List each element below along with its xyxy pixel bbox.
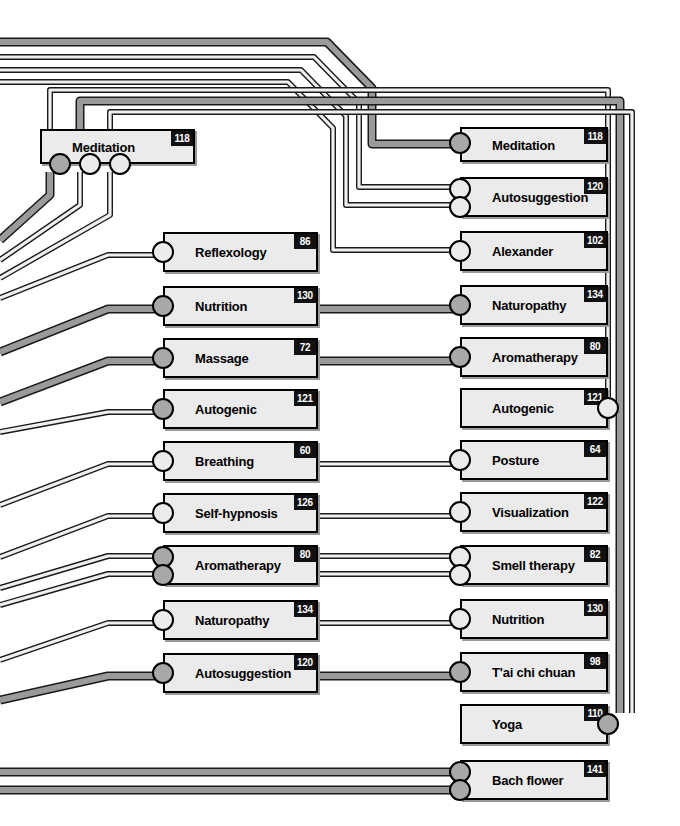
port-left-alexander-0[interactable] [449,240,471,262]
node-badge: 118 [171,131,193,146]
node-left-autogenic[interactable]: 121Autogenic [163,389,318,429]
node-badge: 64 [584,442,606,457]
node-badge: 130 [294,288,316,303]
node-right-smell-therapy[interactable]: 82Smell therapy [460,545,608,585]
node-label: T'ai chi chuan [492,665,575,680]
node-label: Massage [195,351,249,366]
node-label: Autosuggestion [492,190,588,205]
node-badge: 80 [294,547,316,562]
node-right-autogenic[interactable]: 121Autogenic [460,388,608,428]
node-label: Posture [492,453,539,468]
node-label: Nutrition [492,612,544,627]
port-right-yoga-0[interactable] [597,713,619,735]
node-label: Autosuggestion [195,666,291,681]
node-badge: 141 [584,762,606,777]
port-left-self-hypnosis-0[interactable] [152,502,174,524]
node-badge: 126 [294,495,316,510]
node-left-massage[interactable]: 72Massage [163,338,318,378]
node-label: Visualization [492,505,569,520]
node-left-naturopathy[interactable]: 134Naturopathy [163,600,318,640]
port-left-aromatherapy-1[interactable] [152,564,174,586]
node-right-yoga[interactable]: 110Yoga [460,704,608,744]
node-badge: 120 [294,655,316,670]
node-label: Meditation [72,139,135,154]
node-badge: 98 [584,654,606,669]
node-right-alexander[interactable]: 102Alexander [460,231,608,271]
port-left-autosuggestion-1[interactable] [449,196,471,218]
node-right-aromatherapy[interactable]: 80Aromatherapy [460,337,608,377]
port-left-bach-flower-1[interactable] [449,779,471,801]
node-label: Nutrition [195,299,247,314]
node-badge: 121 [294,391,316,406]
node-label: Autogenic [195,402,257,417]
port-left-meditation-0[interactable] [449,132,471,154]
port-left-breathing-0[interactable] [152,450,174,472]
node-label: Meditation [492,137,555,152]
node-left-reflexology[interactable]: 86Reflexology [163,232,318,272]
node-right-nutrition[interactable]: 130Nutrition [460,599,608,639]
diagram-canvas: 118Meditation86Reflexology130Nutrition72… [0,0,680,826]
port-left-smell-therapy-1[interactable] [449,564,471,586]
port-left-nutrition-0[interactable] [152,295,174,317]
node-label: Alexander [492,244,553,259]
node-label: Aromatherapy [492,350,578,365]
node-badge: 134 [584,287,606,302]
node-left-aromatherapy[interactable]: 80Aromatherapy [163,545,318,585]
port-left-naturopathy-0[interactable] [152,609,174,631]
node-badge: 102 [584,233,606,248]
node-badge: 60 [294,443,316,458]
port-left-t-ai-chi-chuan-0[interactable] [449,661,471,683]
node-label: Bach flower [492,773,563,788]
node-badge: 82 [584,547,606,562]
port-left-visualization-0[interactable] [449,501,471,523]
node-left-breathing[interactable]: 60Breathing [163,441,318,481]
port-bottom-meditation-1[interactable] [79,153,101,175]
port-bottom-meditation-2[interactable] [109,153,131,175]
port-left-autosuggestion-0[interactable] [152,662,174,684]
node-label: Yoga [492,717,522,732]
node-badge: 130 [584,601,606,616]
node-left-autosuggestion[interactable]: 120Autosuggestion [163,653,318,693]
node-label: Naturopathy [492,298,566,313]
node-label: Naturopathy [195,613,269,628]
node-badge: 80 [584,339,606,354]
node-left-nutrition[interactable]: 130Nutrition [163,286,318,326]
node-badge: 72 [294,340,316,355]
port-left-nutrition-0[interactable] [449,608,471,630]
node-right-posture[interactable]: 64Posture [460,440,608,480]
port-left-naturopathy-0[interactable] [449,294,471,316]
node-badge: 134 [294,602,316,617]
node-label: Autogenic [492,401,554,416]
port-bottom-meditation-0[interactable] [49,153,71,175]
node-badge: 86 [294,234,316,249]
node-right-autosuggestion[interactable]: 120Autosuggestion [460,177,608,217]
node-label: Self-hypnosis [195,506,278,521]
node-left-self-hypnosis[interactable]: 126Self-hypnosis [163,493,318,533]
node-badge: 122 [584,494,606,509]
node-right-naturopathy[interactable]: 134Naturopathy [460,285,608,325]
node-label: Aromatherapy [195,558,281,573]
node-layer: 118Meditation86Reflexology130Nutrition72… [0,0,680,826]
node-right-meditation[interactable]: 118Meditation [460,127,608,162]
port-left-reflexology-0[interactable] [152,241,174,263]
node-label: Reflexology [195,245,266,260]
port-left-autogenic-0[interactable] [152,398,174,420]
node-right-bach-flower[interactable]: 141Bach flower [460,760,608,800]
node-label: Smell therapy [492,558,575,573]
node-right-t-ai-chi-chuan[interactable]: 98T'ai chi chuan [460,652,608,692]
port-left-posture-0[interactable] [449,449,471,471]
node-right-visualization[interactable]: 122Visualization [460,492,608,532]
node-badge: 118 [584,129,606,144]
node-label: Breathing [195,454,254,469]
port-left-massage-0[interactable] [152,347,174,369]
port-left-aromatherapy-0[interactable] [449,346,471,368]
port-right-autogenic-0[interactable] [597,397,619,419]
